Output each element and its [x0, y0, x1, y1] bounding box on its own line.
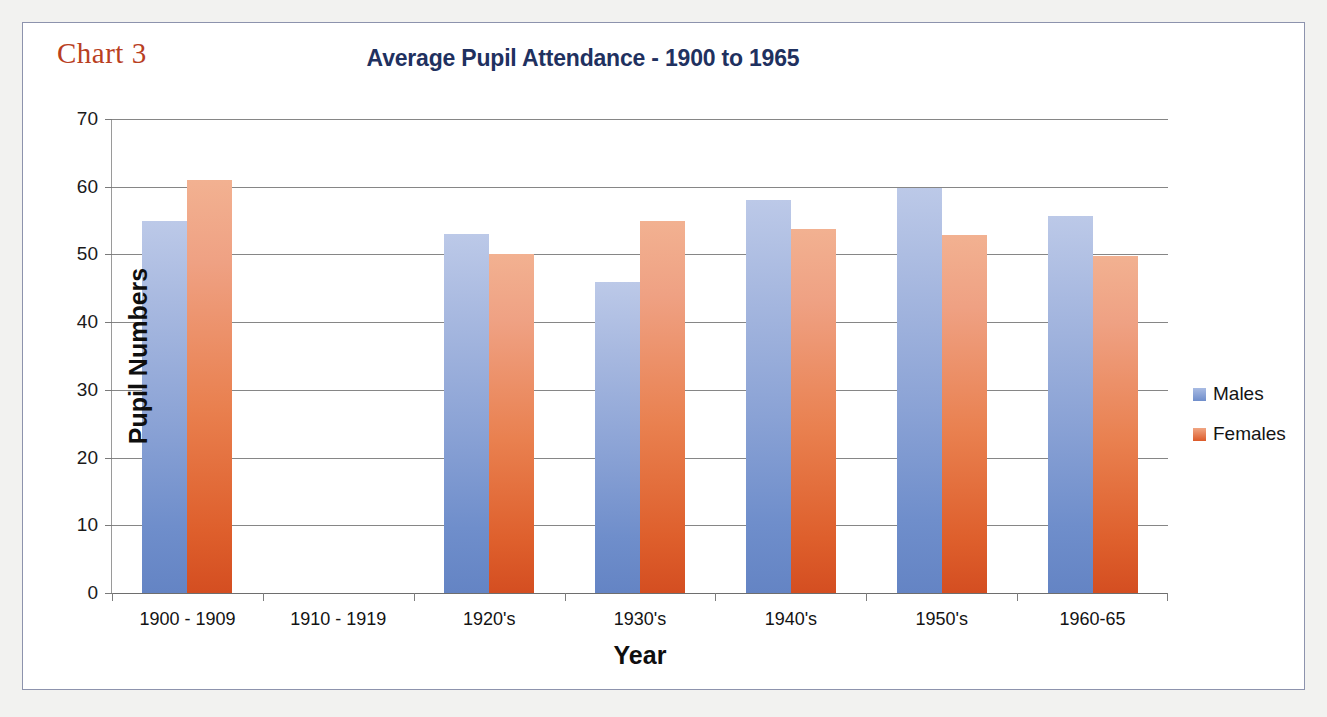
x-axis-category-label: 1950's	[866, 609, 1017, 630]
x-axis-category: 1940's	[715, 593, 866, 639]
x-axis-category-label: 1960-65	[1017, 609, 1168, 630]
bar-group	[715, 119, 866, 593]
legend-swatch-icon	[1193, 428, 1206, 441]
bar-males[interactable]	[746, 200, 791, 593]
legend-label: Females	[1213, 423, 1286, 445]
y-axis-tick-label: 70	[77, 108, 98, 130]
x-axis-tick	[565, 593, 566, 601]
y-axis-tick-label: 30	[77, 379, 98, 401]
x-axis-tick	[414, 593, 415, 601]
x-axis-category-label: 1930's	[565, 609, 716, 630]
y-axis-tick	[105, 525, 112, 526]
bar-males[interactable]	[444, 234, 489, 593]
y-axis-tick-label: 40	[77, 311, 98, 333]
y-axis-tick	[105, 254, 112, 255]
bar-females[interactable]	[942, 235, 987, 593]
x-axis-tick	[1017, 593, 1018, 601]
bar-females[interactable]	[1093, 256, 1138, 593]
bar-group	[866, 119, 1017, 593]
x-axis-category: 1930's	[565, 593, 716, 639]
y-axis-tick-label: 0	[87, 582, 98, 604]
chart-page: Chart 3 Average Pupil Attendance - 1900 …	[0, 0, 1327, 717]
legend-item-males[interactable]: Males	[1193, 383, 1303, 405]
x-axis-category: 1950's	[866, 593, 1017, 639]
x-axis-category: 1910 - 1919	[263, 593, 414, 639]
chart-frame: Chart 3 Average Pupil Attendance - 1900 …	[22, 22, 1305, 690]
x-axis-categories: 1900 - 19091910 - 19191920's1930's1940's…	[112, 593, 1168, 639]
bar-group	[414, 119, 565, 593]
bar-females[interactable]	[489, 254, 534, 593]
plot-area: 706050403020100 Pupil Numbers	[112, 119, 1168, 593]
x-axis-tick	[112, 593, 113, 601]
chart-legend: MalesFemales	[1193, 383, 1303, 463]
bar-group	[1017, 119, 1168, 593]
bar-males[interactable]	[1048, 216, 1093, 593]
bar-females[interactable]	[791, 229, 836, 593]
bar-group	[565, 119, 716, 593]
x-axis-category: 1960-65	[1017, 593, 1168, 639]
x-axis-tick	[1167, 593, 1168, 601]
x-axis-category-label: 1910 - 1919	[263, 609, 414, 630]
y-axis-tick	[105, 322, 112, 323]
bar-group	[263, 119, 414, 593]
y-axis-tick-label: 10	[77, 514, 98, 536]
y-axis-tick	[105, 390, 112, 391]
y-axis-tick-label: 20	[77, 447, 98, 469]
x-axis-tick	[866, 593, 867, 601]
legend-swatch-icon	[1193, 388, 1206, 401]
x-axis-tick	[263, 593, 264, 601]
x-axis-category-label: 1940's	[715, 609, 866, 630]
chart-title: Average Pupil Attendance - 1900 to 1965	[23, 45, 1143, 72]
y-axis-title: Pupil Numbers	[124, 268, 153, 444]
x-axis-category: 1900 - 1909	[112, 593, 263, 639]
y-axis-tick-label: 50	[77, 243, 98, 265]
bar-females[interactable]	[187, 180, 232, 593]
x-axis-tick	[715, 593, 716, 601]
x-axis-category-label: 1920's	[414, 609, 565, 630]
y-axis-tick	[105, 187, 112, 188]
y-axis-tick-label: 60	[77, 176, 98, 198]
bars-layer	[112, 119, 1168, 593]
legend-item-females[interactable]: Females	[1193, 423, 1303, 445]
bar-females[interactable]	[640, 221, 685, 593]
bar-males[interactable]	[595, 282, 640, 593]
y-axis-tick	[105, 119, 112, 120]
x-axis-title: Year	[112, 641, 1168, 670]
y-axis-tick	[105, 593, 112, 594]
bar-males[interactable]	[897, 188, 942, 593]
x-axis-category: 1920's	[414, 593, 565, 639]
x-axis-category-label: 1900 - 1909	[112, 609, 263, 630]
y-axis-tick	[105, 458, 112, 459]
legend-label: Males	[1213, 383, 1264, 405]
